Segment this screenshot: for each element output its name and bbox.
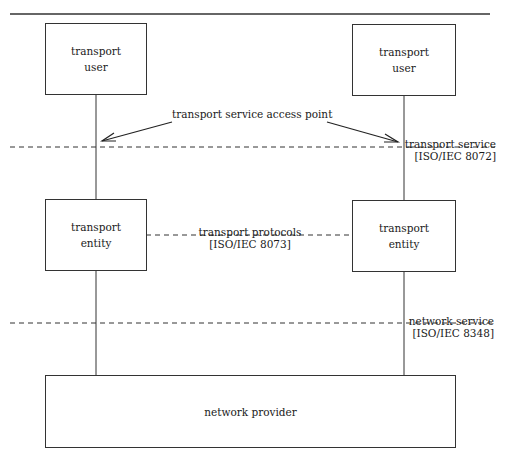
- transport-service-label: transport service [ISO/IEC 8072]: [380, 138, 496, 162]
- box-label-line2: user: [84, 59, 107, 75]
- label-line2: [ISO/IEC 8348]: [380, 327, 494, 339]
- box-label-line1: transport: [379, 220, 429, 236]
- transport-user-left-box: transport user: [45, 23, 147, 95]
- label-line2: [ISO/IEC 8072]: [380, 150, 496, 162]
- box-label: network provider: [204, 404, 297, 420]
- access-point-label: transport service access point: [172, 108, 328, 120]
- box-label-line2: entity: [389, 236, 420, 252]
- network-service-label: network service [ISO/IEC 8348]: [380, 315, 494, 339]
- transport-user-right-box: transport user: [352, 24, 456, 96]
- box-label-line1: transport: [71, 43, 121, 59]
- transport-entity-right-box: transport entity: [352, 200, 456, 272]
- network-provider-box: network provider: [45, 375, 456, 448]
- box-label-line2: user: [392, 60, 415, 76]
- label-line1: network service: [380, 315, 494, 327]
- label-line1: transport service: [380, 138, 496, 150]
- arrow-left-icon: [102, 122, 172, 141]
- transport-entity-left-box: transport entity: [45, 199, 147, 271]
- label-line2: [ISO/IEC 8073]: [190, 238, 310, 250]
- label-line1: transport protocols: [190, 226, 310, 238]
- transport-protocols-label: transport protocols [ISO/IEC 8073]: [190, 226, 310, 250]
- box-label-line2: entity: [81, 235, 112, 251]
- transport-service-boundary: [0, 0, 10, 67]
- box-label-line1: transport: [71, 219, 121, 235]
- box-label-line1: transport: [379, 44, 429, 60]
